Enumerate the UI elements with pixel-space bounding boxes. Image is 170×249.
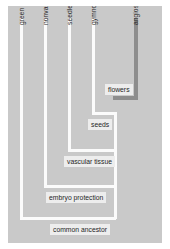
node-label-embryo-protection: embryo protection	[46, 192, 106, 203]
branch-vascular-stem	[114, 112, 117, 151]
taxon-label-green-algae: green algae	[18, 6, 25, 25]
branch-embryo-stem	[114, 149, 117, 187]
branch-angiosperms-highlight	[134, 18, 138, 100]
taxon-label-gymnosperms: gymnosperms	[90, 6, 97, 25]
node-label-flowers: flowers	[105, 84, 133, 95]
branch-vascular-tissue-horizontal	[68, 149, 116, 152]
branch-green-algae	[20, 18, 23, 219]
taxon-label-nonvascular-plants: nonvascular plants (bryophytes)	[42, 6, 49, 25]
branch-root-stem	[114, 185, 117, 219]
branch-seedless-vascular	[68, 18, 71, 151]
branch-nonvascular-plants	[44, 18, 47, 187]
taxon-label-angiosperms: angiosperms	[132, 6, 139, 25]
branch-root-horizontal	[20, 217, 116, 220]
node-label-vascular-tissue: vascular tissue	[64, 156, 115, 167]
node-label-seeds: seeds	[88, 119, 112, 130]
branch-seeds-horizontal	[92, 112, 116, 115]
cladogram-panel: green algae nonvascular plants (bryophyt…	[8, 6, 162, 243]
node-label-common-ancestor: common ancestor	[50, 224, 110, 235]
branch-embryo-protection-horizontal	[44, 185, 116, 188]
cladogram-figure: green algae nonvascular plants (bryophyt…	[0, 0, 170, 249]
branch-gymnosperms	[92, 18, 95, 114]
taxon-label-seedless-vascular-plants: seedless vascular plants	[66, 6, 73, 25]
